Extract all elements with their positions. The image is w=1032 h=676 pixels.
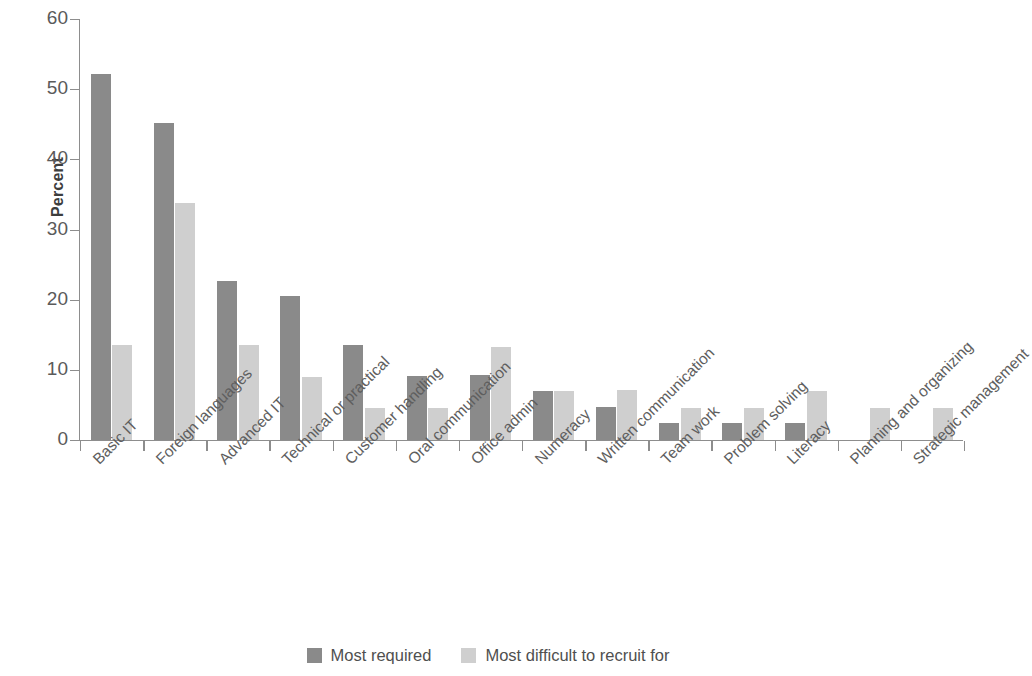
- y-tick-label: 50: [34, 78, 68, 97]
- y-tick-label: 40: [34, 148, 68, 167]
- x-tick-mark: [143, 441, 144, 451]
- y-tick-label: 10: [34, 359, 68, 378]
- y-tick-mark: [70, 19, 79, 20]
- x-tick-mark: [711, 441, 712, 451]
- x-tick-mark: [838, 441, 839, 451]
- legend-label: Most required: [331, 646, 432, 665]
- bar-0: [91, 74, 111, 440]
- x-tick-mark: [206, 441, 207, 451]
- x-tick-mark: [269, 441, 270, 451]
- bar-0: [217, 281, 237, 440]
- x-tick-mark: [964, 441, 965, 451]
- x-tick-mark: [80, 441, 81, 451]
- legend-swatch-icon: [307, 648, 322, 663]
- y-tick-label: 0: [34, 429, 68, 448]
- y-tick-mark: [70, 230, 79, 231]
- x-tick-mark: [522, 441, 523, 451]
- legend-item[interactable]: Most required: [307, 646, 432, 665]
- y-tick-mark: [70, 370, 79, 371]
- y-tick-mark: [70, 300, 79, 301]
- chart-legend: Most requiredMost difficult to recruit f…: [0, 646, 976, 665]
- y-tick-mark: [70, 159, 79, 160]
- x-tick-mark: [333, 441, 334, 451]
- y-tick-label: 30: [34, 219, 68, 238]
- legend-swatch-icon: [461, 648, 476, 663]
- bar-0: [533, 391, 553, 440]
- y-tick-mark: [70, 440, 79, 441]
- bar-0: [154, 123, 174, 440]
- legend-item[interactable]: Most difficult to recruit for: [461, 646, 669, 665]
- x-tick-mark: [585, 441, 586, 451]
- bar-0: [280, 296, 300, 440]
- x-tick-mark: [396, 441, 397, 451]
- bar-1: [175, 203, 195, 440]
- x-axis-line: [79, 440, 963, 441]
- legend-label: Most difficult to recruit for: [485, 646, 669, 665]
- x-tick-mark: [459, 441, 460, 451]
- x-tick-mark: [648, 441, 649, 451]
- y-tick-label: 60: [34, 8, 68, 27]
- y-tick-mark: [70, 89, 79, 90]
- y-tick-label: 20: [34, 289, 68, 308]
- x-tick-mark: [901, 441, 902, 451]
- plot-area: [80, 19, 964, 440]
- x-tick-mark: [775, 441, 776, 451]
